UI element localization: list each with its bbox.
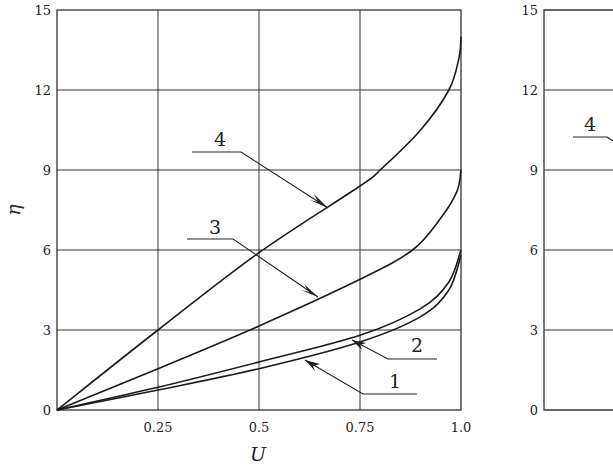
leader-line [573, 137, 613, 141]
leader-line [192, 152, 328, 208]
y-tick-label: 3 [43, 323, 51, 338]
arrowhead-icon [305, 360, 320, 371]
y-tick-label: 15 [521, 3, 538, 18]
grid [57, 10, 461, 410]
y-tick-label: 6 [43, 243, 51, 258]
arrowhead-icon [301, 284, 318, 297]
y-tick-label: 0 [530, 403, 538, 418]
x-tick-label: 0.75 [346, 420, 375, 435]
y-axis-label: η [2, 204, 24, 216]
curve-label-4: 4 [214, 128, 226, 150]
y-tick-label: 3 [530, 323, 538, 338]
y-tick-label: 9 [43, 163, 51, 178]
annotation-curve-2: 2 [352, 334, 437, 359]
annotation-curve-1: 1 [305, 360, 417, 394]
curve-label-2: 2 [411, 334, 423, 356]
x-tick-labels: 0.250.50.751.0 [144, 420, 472, 435]
y-tick-label: 12 [34, 83, 51, 98]
y-tick-labels: 03691215 [34, 3, 51, 418]
x-tick-label: 0.25 [144, 420, 173, 435]
y-tick-label: 0 [43, 403, 51, 418]
panel-left: 03691215 0.250.50.751.0 U η 4 3 2 1 [2, 3, 471, 465]
grid [544, 90, 613, 330]
curve-label-1: 1 [389, 370, 401, 392]
y-tick-label: 15 [34, 3, 51, 18]
curve-label-4: 4 [584, 113, 596, 135]
annotation-curve-4-panel2: 4 [573, 113, 613, 141]
curve-label-3: 3 [209, 216, 221, 238]
arrowhead-icon [310, 194, 328, 208]
leader-line [187, 239, 318, 297]
x-axis-label: U [250, 443, 267, 465]
y-tick-label: 9 [530, 163, 538, 178]
x-tick-label: 0.5 [249, 420, 270, 435]
panel-right: 03691215 4 [521, 3, 613, 418]
y-tick-label: 6 [530, 243, 538, 258]
y-tick-labels: 03691215 [521, 3, 538, 418]
x-tick-label: 1.0 [451, 420, 472, 435]
annotation-curve-4: 4 [192, 128, 328, 208]
y-tick-label: 12 [521, 83, 538, 98]
chart-figure: 03691215 0.250.50.751.0 U η 4 3 2 1 0 [0, 0, 613, 476]
plot-frame [544, 10, 613, 410]
